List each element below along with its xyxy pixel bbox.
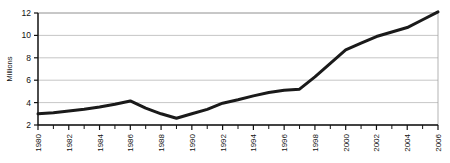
x-axis-tick-label: 1980 [34, 133, 43, 151]
x-axis-tick-label: 2006 [434, 133, 443, 151]
x-axis-tick-label: 2002 [372, 133, 381, 151]
x-axis-tick-label: 1992 [219, 133, 228, 151]
x-axis-tick-label: 1996 [280, 133, 289, 151]
x-axis-tick-label: 1982 [65, 133, 74, 151]
y-axis-tick-label: 8 [26, 53, 31, 63]
x-axis-tick-label: 1994 [249, 133, 258, 151]
y-axis-tick-label: 6 [26, 75, 31, 85]
y-axis-tick-label: 2 [26, 120, 31, 130]
x-axis-tick-label: 1984 [96, 133, 105, 151]
x-axis-tick-label: 1998 [311, 133, 320, 151]
y-axis-tick-label: 4 [26, 98, 31, 108]
x-axis-tick-label: 2004 [403, 133, 412, 151]
x-axis-tick-label: 1986 [126, 133, 135, 151]
chart-canvas: 24681012 1980198219841986198819901992199… [0, 0, 450, 163]
x-axis-ticks: 1980198219841986198819901992199419961998… [34, 125, 443, 152]
y-axis-title: Millions [5, 56, 14, 81]
line-chart: 24681012 1980198219841986198819901992199… [0, 0, 450, 163]
y-axis-tick-label: 10 [22, 30, 32, 40]
y-axis-ticks: 24681012 [22, 8, 38, 130]
x-axis-tick-label: 2000 [342, 133, 351, 151]
y-axis-tick-label: 12 [22, 8, 32, 18]
x-axis-tick-label: 1990 [188, 133, 197, 151]
x-axis-tick-label: 1988 [157, 133, 166, 151]
